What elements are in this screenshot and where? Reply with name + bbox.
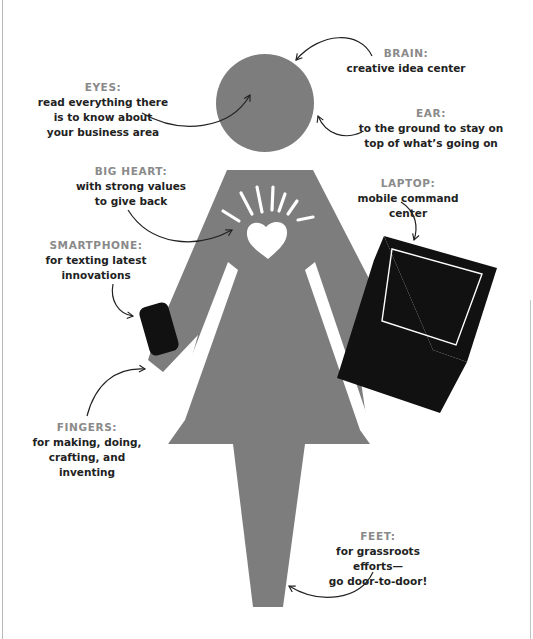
infographic-canvas: BRAIN: creative idea center EYES: read e… <box>0 0 533 639</box>
fingers-label: FINGERS: <box>22 420 152 435</box>
ear-label: EAR: <box>356 106 506 121</box>
fingers-desc: for making, doing, crafting, and inventi… <box>22 435 152 480</box>
smartphone-arrow <box>112 284 133 316</box>
feet-label: FEET: <box>318 529 438 544</box>
brain-desc: creative idea center <box>344 61 468 76</box>
fingers-annotation: FINGERS: for making, doing, crafting, an… <box>22 420 152 480</box>
heart-desc: with strong values to give back <box>68 179 194 209</box>
eyes-annotation: EYES: read everything there is to know a… <box>28 80 178 140</box>
feet-annotation: FEET: for grassroots efforts— go door-to… <box>318 529 438 589</box>
legs <box>233 444 305 607</box>
smartphone-annotation: SMARTPHONE: for texting latest innovatio… <box>40 238 152 283</box>
smartphone-label: SMARTPHONE: <box>40 238 152 253</box>
heart-label: BIG HEART: <box>68 164 194 179</box>
laptop-annotation: LAPTOP: mobile command center <box>338 176 478 221</box>
feet-desc: for grassroots efforts— go door-to-door! <box>318 544 438 589</box>
smartphone-desc: for texting latest innovations <box>40 253 152 283</box>
brain-annotation: BRAIN: creative idea center <box>344 46 468 76</box>
fingers-arrow <box>87 369 145 416</box>
laptop-desc: mobile command center <box>338 191 478 221</box>
eyes-desc: read everything there is to know about y… <box>28 95 178 140</box>
ear-annotation: EAR: to the ground to stay on top of wha… <box>356 106 506 151</box>
laptop-label: LAPTOP: <box>338 176 478 191</box>
heart-annotation: BIG HEART: with strong values to give ba… <box>68 164 194 209</box>
eyes-label: EYES: <box>28 80 178 95</box>
brain-label: BRAIN: <box>344 46 468 61</box>
ear-desc: to the ground to stay on top of what’s g… <box>356 121 506 151</box>
head-circle <box>216 54 314 152</box>
